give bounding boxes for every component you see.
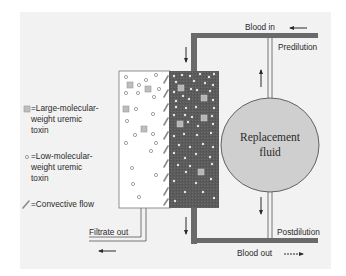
legend-small-toxin-text: =Low-molecular- weight uremic toxin	[31, 151, 93, 183]
blood-compartment	[169, 71, 219, 208]
blood-inlet-tubing	[191, 33, 318, 73]
small-toxin-circle-icon	[25, 155, 28, 158]
legend-large-toxin-text: =Large-molecular- weight uremic toxin	[31, 103, 99, 135]
legend-convective-flow-text: =Convective flow	[31, 199, 94, 210]
filtrate-out-label: Filtrate out	[89, 227, 128, 238]
replacement-fluid-label: Replacement fluid	[230, 130, 310, 160]
blood-outlet-tubing	[191, 206, 318, 244]
convective-flow-icon	[23, 201, 29, 208]
predilution-label: Predilution	[278, 42, 317, 53]
predilution-line	[268, 38, 272, 99]
large-toxin-square-icon	[24, 106, 30, 112]
postdilution-line	[268, 191, 272, 238]
blood-in-label: Blood in	[245, 22, 275, 33]
blood-out-label: Blood out	[237, 248, 272, 259]
postdilution-label: Postdilution	[277, 227, 320, 238]
